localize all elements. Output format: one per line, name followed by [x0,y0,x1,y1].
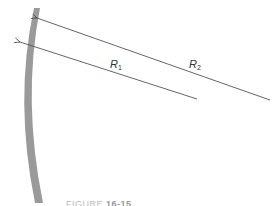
label-r1-subscript: 1 [118,64,122,71]
figure-caption: FIGURE 16-15 [66,200,132,206]
caption-number: 16-15 [106,199,132,206]
label-r2-subscript: 2 [197,64,201,71]
caption-prefix: FIGURE [66,199,103,206]
label-r1-symbol: R [110,58,118,70]
label-r1: R1 [110,59,122,71]
curved-mirror [24,8,43,203]
label-r2: R2 [189,59,201,71]
ray-r1 [20,42,197,99]
mirror-ray-diagram [0,0,278,206]
label-r2-symbol: R [189,58,197,70]
